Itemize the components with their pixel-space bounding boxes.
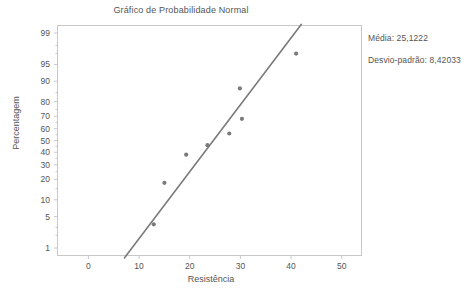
x-tick-label: 10 [134, 261, 144, 271]
y-tick-label: 10 [41, 195, 51, 205]
y-tick-label: 1 [45, 243, 50, 253]
data-point [238, 86, 242, 90]
y-tick-label: 30 [41, 160, 51, 170]
normal-probability-plot-page: Gráfico de Probabilidade Normal 15102030… [0, 0, 475, 295]
y-tick-label: 60 [41, 124, 51, 134]
fit-line-segment [124, 24, 301, 258]
data-point [152, 222, 156, 226]
x-tick-label: 40 [286, 261, 296, 271]
y-tick-label: 70 [41, 111, 51, 121]
y-tick-label: 99 [41, 28, 51, 38]
x-tick-label: 30 [236, 261, 246, 271]
data-point-markers [152, 51, 299, 226]
x-tick-label: 0 [86, 261, 91, 271]
y-axis-ticks: 151020304050607080909599 [41, 28, 58, 253]
y-tick-label: 5 [45, 212, 50, 222]
y-axis-label: Percentagem [11, 83, 21, 163]
data-point [205, 143, 209, 147]
plot-frame [58, 26, 362, 256]
statistics-annotation: Média: 25,1222 Desvio-padrão: 8,42033 [368, 33, 475, 77]
y-tick-label: 40 [41, 147, 51, 157]
data-point [162, 181, 166, 185]
mean-annotation: Média: 25,1222 [368, 33, 475, 43]
y-tick-label: 80 [41, 97, 51, 107]
x-tick-label: 20 [185, 261, 195, 271]
data-point [240, 117, 244, 121]
fit-line [124, 24, 301, 258]
data-point [227, 131, 231, 135]
data-point [294, 51, 298, 55]
y-tick-label: 50 [41, 136, 51, 146]
data-point [184, 153, 188, 157]
plot-frame-rect [58, 26, 362, 256]
stddev-annotation: Desvio-padrão: 8,42033 [368, 55, 475, 65]
y-tick-label: 95 [41, 59, 51, 69]
x-tick-label: 50 [337, 261, 347, 271]
x-axis-label: Resistência [60, 274, 362, 284]
y-tick-label: 20 [41, 174, 51, 184]
y-tick-label: 90 [41, 76, 51, 86]
